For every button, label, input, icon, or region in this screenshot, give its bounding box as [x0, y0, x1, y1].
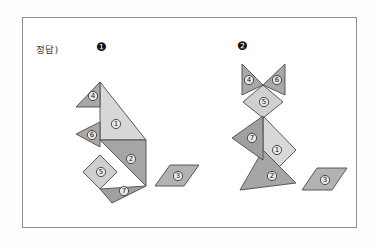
figure-2-small-triangle-label-bg — [244, 75, 253, 84]
figure-1-small-triangle-label-bg — [87, 130, 96, 139]
figure-1-square-label-bg — [96, 167, 105, 176]
figure-2-square-label-bg — [259, 97, 268, 106]
figure-2-parallelogram-label-bg — [320, 175, 329, 184]
figure-1-large-triangle-label-bg — [111, 119, 120, 128]
tangram-rabbit: 1234567 — [76, 82, 199, 203]
tangram-cat: 1234567 — [232, 64, 347, 190]
figure-1-large-triangle — [100, 82, 146, 140]
figure-2-large-triangle-label-bg — [272, 145, 281, 154]
figure-2-medium-triangle-label-bg — [247, 133, 256, 142]
figure-1-small-triangle-label-bg — [88, 91, 97, 100]
figure-2-large-triangle-label-bg — [267, 171, 276, 180]
page-root: 정답) ❶ ❷ 12345671234567 — [0, 0, 379, 245]
tangram-figures: 12345671234567 — [0, 0, 379, 245]
figure-1-medium-triangle-label-bg — [119, 186, 128, 195]
figure-1-parallelogram-label-bg — [173, 171, 182, 180]
figure-2-small-triangle-label-bg — [272, 75, 281, 84]
figure-1-large-triangle-label-bg — [126, 154, 135, 163]
